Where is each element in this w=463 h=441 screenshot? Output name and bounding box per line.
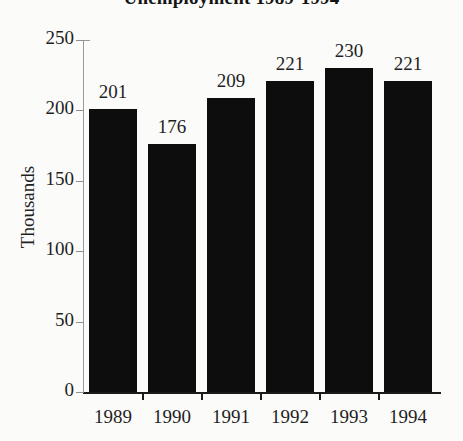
bar-value-label: 201 [81,81,145,103]
bar [384,81,432,392]
y-axis-tick [76,251,84,252]
y-axis-tick [76,322,84,323]
bar [207,98,255,392]
x-axis-category-label: 1989 [79,406,147,428]
bar [148,144,196,392]
y-axis-tick-label: 250 [28,27,74,49]
x-axis-category-label: 1994 [374,406,442,428]
bar-value-label: 230 [317,40,381,62]
y-axis-tick [76,110,84,111]
y-axis-tick [76,392,84,393]
x-axis-tick [378,392,380,400]
bar-value-label: 176 [140,116,204,138]
y-axis-tick-label: 150 [28,168,74,190]
x-axis-category-label: 1992 [256,406,324,428]
y-axis-tick-label: 50 [28,309,74,331]
bar [325,68,373,392]
x-axis-category-label: 1993 [315,406,383,428]
bar-value-label: 221 [258,53,322,75]
x-axis-category-label: 1991 [197,406,265,428]
x-axis-line [83,392,441,394]
y-axis-tick-label: 200 [28,97,74,119]
bar-value-label: 221 [376,53,440,75]
bar [89,109,137,392]
x-axis-tick [201,392,203,400]
y-axis-tick-label: 0 [28,379,74,401]
y-axis-tick-labels: 050100150200250 [22,0,74,441]
y-axis-tick [76,181,84,182]
y-axis-top-cap [83,40,90,41]
x-axis-tick [260,392,262,400]
bar [266,81,314,392]
x-axis-category-label: 1990 [138,406,206,428]
chart-figure: Unemployment 1989-1994 Thousands 0501001… [0,0,463,441]
x-axis-tick [142,392,144,400]
y-axis-tick [76,40,84,41]
bar-value-label: 209 [199,70,263,92]
y-axis-tick-label: 100 [28,238,74,260]
x-axis-tick [319,392,321,400]
